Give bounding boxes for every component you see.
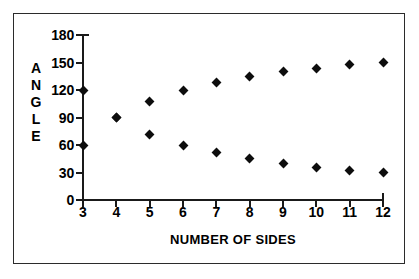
data-point-marker (311, 162, 321, 172)
y-axis-title-letter: A (28, 60, 44, 77)
y-axis-line (82, 34, 84, 201)
data-point-marker (211, 148, 221, 158)
data-point-marker (311, 63, 321, 73)
scatter-plot: A N G L E NUMBER OF SIDES 18015012090603… (0, 0, 419, 279)
x-axis-end-cap (382, 193, 384, 201)
x-axis-tick-label: 10 (301, 205, 331, 219)
y-axis-tick (76, 117, 82, 119)
data-point-marker (145, 96, 155, 106)
y-axis-tick-label-text: 90 (59, 111, 74, 125)
data-point-marker (278, 158, 288, 168)
data-point-marker (211, 77, 221, 87)
data-point-marker (145, 129, 155, 139)
y-axis-title-letter: N (28, 77, 44, 94)
data-point-marker (178, 140, 188, 150)
data-point-marker (178, 85, 188, 95)
y-axis-tick (76, 34, 82, 36)
y-axis-title-letter: L (28, 111, 44, 128)
y-axis-title: A N G L E (28, 60, 44, 145)
x-axis-tick-label: 12 (368, 205, 398, 219)
x-axis-tick-label: 8 (235, 205, 265, 219)
y-axis-tick (76, 62, 82, 64)
x-axis-line (82, 199, 384, 201)
x-axis-tick-label: 11 (335, 205, 365, 219)
y-axis-tick-label-text: 120 (51, 83, 74, 97)
y-axis-title-letter: G (28, 94, 44, 111)
data-point-marker (245, 154, 255, 164)
x-axis-tick-label: 3 (68, 205, 98, 219)
x-axis-tick-label: 6 (168, 205, 198, 219)
data-point-marker (345, 60, 355, 70)
y-axis-tick-label-text: 60 (59, 138, 74, 152)
data-point-marker (378, 58, 388, 68)
data-point-marker (345, 165, 355, 175)
data-point-marker (78, 85, 88, 95)
y-axis-end-cap (82, 34, 89, 36)
y-axis-tick-label-text: 30 (59, 166, 74, 180)
data-point-marker (278, 67, 288, 77)
y-axis-tick-label-text: 150 (51, 56, 74, 70)
y-axis-tick-label-text: 180 (51, 28, 74, 42)
x-axis-tick-label: 9 (268, 205, 298, 219)
data-point-marker (245, 71, 255, 81)
x-axis-title: NUMBER OF SIDES (83, 232, 383, 247)
data-point-marker (378, 168, 388, 178)
y-axis-title-letter: E (28, 128, 44, 145)
y-axis-tick (76, 172, 82, 174)
data-point-marker (78, 140, 88, 150)
x-axis-tick-label: 4 (101, 205, 131, 219)
x-axis-tick-label: 5 (135, 205, 165, 219)
data-point-marker (111, 113, 121, 123)
x-axis-tick-label: 7 (201, 205, 231, 219)
